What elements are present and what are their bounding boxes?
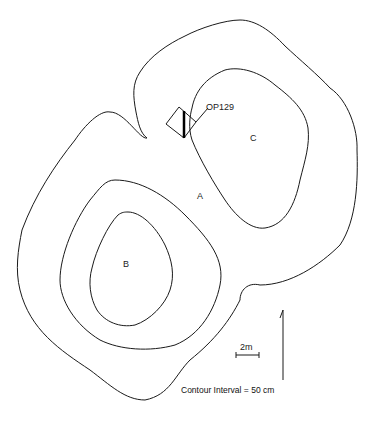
north-arrow-icon xyxy=(280,310,283,380)
contour-interval-caption: Contour Interval = 50 cm xyxy=(181,385,274,395)
op129-trench-icon xyxy=(166,107,208,138)
label-c: C xyxy=(250,133,257,143)
contour-b-inner xyxy=(90,212,173,326)
contour-c xyxy=(190,69,309,228)
scale-bar-icon xyxy=(236,352,259,358)
label-b: B xyxy=(123,259,129,269)
label-a: A xyxy=(197,191,203,201)
contour-b-outer xyxy=(60,180,221,349)
op129-label: OP129 xyxy=(206,102,234,112)
contour-map: OP129 C A B 2m Contour Interval = 50 cm xyxy=(0,0,375,425)
scale-bar-label: 2m xyxy=(240,342,253,352)
contour-outer xyxy=(17,20,357,400)
